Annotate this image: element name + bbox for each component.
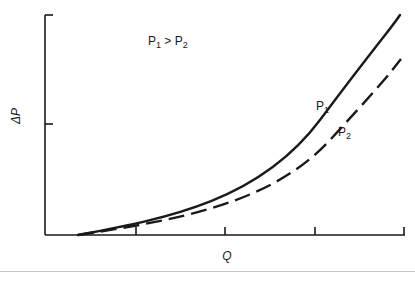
chart: ΔP Q P1 > P2 P1 P2 [0, 0, 415, 281]
x-axis-label: Q [222, 249, 231, 263]
svg-text:P1 > P2: P1 > P2 [148, 34, 188, 50]
curve-p1 [78, 15, 400, 235]
curve-label-p2: P2 [338, 125, 351, 141]
curve-label-p1: P1 [316, 99, 329, 115]
annotation-p1-gt-p2: P1 > P2 [148, 34, 188, 50]
y-axis-label: ΔP [9, 108, 23, 125]
curve-p2 [78, 59, 401, 235]
axes [45, 15, 405, 235]
bottom-separator [0, 271, 415, 272]
